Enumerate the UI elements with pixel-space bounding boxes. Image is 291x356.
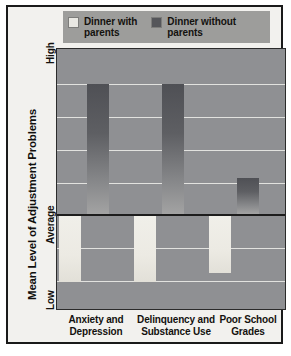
dark-swatch-icon — [151, 17, 162, 28]
x-tick-delinquency-and-substance-use: Delinquency and Substance Use — [133, 314, 219, 338]
legend-item-dinner-without-parents: Dinner without parents — [151, 11, 236, 43]
bar-dinner-without-parents-delinquency — [162, 84, 184, 214]
x-tick-anxiety-and-depression: Anxiety and Depression — [57, 314, 135, 338]
x-tick-poor-school-grades: Poor School Grades — [214, 314, 282, 338]
plot-area — [56, 48, 286, 310]
y-tick-average: Average — [45, 206, 56, 244]
legend-label-dinner-with-parents: Dinner with parents — [84, 16, 137, 38]
figure-container: Dinner with parents Dinner without paren… — [0, 0, 291, 356]
bar-dinner-with-parents-grades — [209, 216, 231, 273]
bar-dinner-with-parents-anxiety — [59, 216, 81, 282]
legend-label-dinner-without-parents: Dinner without parents — [167, 16, 236, 38]
y-tick-high: High — [45, 42, 56, 64]
bar-dinner-with-parents-delinquency — [134, 216, 156, 282]
chart-legend: Dinner with parents Dinner without paren… — [63, 11, 270, 43]
y-axis-title: Mean Level of Adjustment Problems — [26, 109, 38, 300]
light-swatch-icon — [68, 17, 79, 28]
legend-item-dinner-with-parents: Dinner with parents — [68, 11, 137, 43]
bar-dinner-without-parents-anxiety — [87, 84, 109, 214]
y-tick-low: Low — [45, 290, 56, 310]
gridline — [57, 248, 285, 249]
average-baseline — [57, 214, 285, 216]
bar-dinner-without-parents-grades — [237, 178, 259, 214]
gridline — [57, 281, 285, 282]
